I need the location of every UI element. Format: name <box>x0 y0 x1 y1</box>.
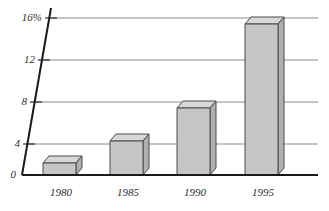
bar-1990-front <box>177 108 210 175</box>
chart-canvas <box>0 0 329 211</box>
bar-1985-side <box>143 134 149 175</box>
bar-1985-top <box>110 134 149 141</box>
y-tick-label-4: 4 <box>2 138 20 149</box>
bar-1990-top <box>177 101 216 108</box>
y-tick-label-12: 12 <box>2 54 35 65</box>
bar-1990-side <box>210 101 216 175</box>
bar-1990 <box>177 101 216 175</box>
bar-1995 <box>245 17 284 175</box>
x-tick-label-1985: 1985 <box>103 187 153 198</box>
y-tick-marks <box>23 18 57 144</box>
y-tick-label-0: 0 <box>1 169 16 180</box>
bar-1995-side <box>278 17 284 175</box>
bar-1985 <box>110 134 149 175</box>
bar-1985-front <box>110 141 143 175</box>
bar-1995-front <box>245 24 278 175</box>
x-tick-label-1990: 1990 <box>170 187 220 198</box>
y-tick-label-16: 16% <box>2 12 42 23</box>
y-axis-line <box>22 8 51 175</box>
bar-1980-front <box>43 163 76 175</box>
bar-1995-top <box>245 17 284 24</box>
y-tick-label-8: 8 <box>2 96 27 107</box>
x-tick-label-1995: 1995 <box>238 187 288 198</box>
plot-area: 16% 12 8 4 0 1980 1985 1990 1995 <box>0 0 329 211</box>
bar-1980-top <box>43 156 82 163</box>
bar-chart: 16% 12 8 4 0 1980 1985 1990 1995 <box>0 0 329 211</box>
x-tick-label-1980: 1980 <box>36 187 86 198</box>
bar-1980 <box>43 156 82 175</box>
